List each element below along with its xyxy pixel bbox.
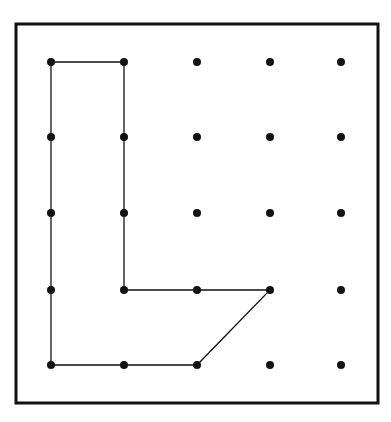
peg-dot bbox=[266, 361, 274, 369]
peg-dot bbox=[47, 361, 55, 369]
l-shape-polygon bbox=[51, 62, 270, 365]
peg-dot bbox=[120, 361, 128, 369]
peg-dot bbox=[337, 286, 345, 294]
peg-dot bbox=[337, 209, 345, 217]
peg-dot bbox=[193, 286, 201, 294]
peg-dot bbox=[266, 286, 274, 294]
peg-dot bbox=[193, 209, 201, 217]
peg-dot bbox=[120, 133, 128, 141]
peg-dot bbox=[193, 133, 201, 141]
peg-dot bbox=[120, 209, 128, 217]
peg-dot bbox=[266, 209, 274, 217]
peg-grid bbox=[47, 58, 345, 369]
peg-dot bbox=[266, 58, 274, 66]
peg-dot bbox=[47, 209, 55, 217]
peg-dot bbox=[120, 58, 128, 66]
peg-dot bbox=[193, 361, 201, 369]
peg-dot bbox=[47, 133, 55, 141]
peg-dot bbox=[337, 361, 345, 369]
peg-dot bbox=[47, 58, 55, 66]
peg-dot bbox=[47, 286, 55, 294]
peg-dot bbox=[266, 133, 274, 141]
geoboard-diagram bbox=[0, 0, 391, 422]
peg-dot bbox=[337, 58, 345, 66]
peg-dot bbox=[120, 286, 128, 294]
peg-dot bbox=[193, 58, 201, 66]
peg-dot bbox=[337, 133, 345, 141]
